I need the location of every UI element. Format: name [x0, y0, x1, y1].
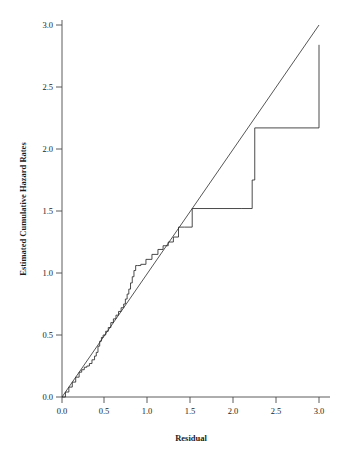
y-axis-title: Estimated Cumulative Hazard Rates	[18, 142, 28, 276]
y-ticklabel-5: 2.5	[42, 82, 53, 92]
qq-plot-svg: 3.0 2.5 2.0 1.5 1.0 0.5 0.0 0.0 0.5 1.0 …	[0, 0, 352, 457]
y-ticklabel-2: 1.0	[42, 268, 53, 278]
x-axis-tick-labels: 0.0 0.5 1.0 1.5 2.0 2.5 3.0	[57, 406, 325, 416]
x-axis-title: Residual	[175, 433, 207, 443]
x-ticklabel-6: 3.0	[314, 406, 325, 416]
y-ticklabel-3: 1.5	[42, 206, 53, 216]
x-ticklabel-3: 1.5	[185, 406, 196, 416]
y-axis-tick-labels: 3.0 2.5 2.0 1.5 1.0 0.5 0.0	[42, 20, 53, 402]
y-ticklabel-4: 2.0	[42, 144, 53, 154]
x-ticklabel-5: 2.5	[271, 406, 282, 416]
y-ticklabel-6: 3.0	[42, 20, 53, 30]
x-ticklabel-1: 0.5	[99, 406, 110, 416]
x-axis-ticks	[62, 397, 319, 403]
x-ticklabel-0: 0.0	[57, 406, 68, 416]
x-ticklabel-4: 2.0	[228, 406, 239, 416]
cumulative-hazard-step-series	[62, 45, 319, 397]
y-ticklabel-0: 0.0	[42, 392, 53, 402]
chart-figure: 3.0 2.5 2.0 1.5 1.0 0.5 0.0 0.0 0.5 1.0 …	[0, 0, 352, 457]
y-ticklabel-1: 0.5	[42, 330, 53, 340]
y-axis-ticks	[56, 25, 62, 397]
x-ticklabel-2: 1.0	[142, 406, 153, 416]
